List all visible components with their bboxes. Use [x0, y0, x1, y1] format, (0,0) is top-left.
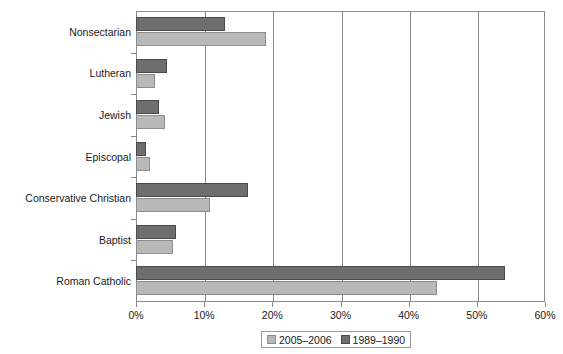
y-axis-label-lutheran: Lutheran	[0, 67, 131, 79]
y-axis-tick	[131, 260, 136, 261]
y-axis-tick	[131, 136, 136, 137]
bar-2005-2006	[136, 74, 155, 88]
bar-2005-2006	[136, 157, 150, 171]
bar-row	[136, 136, 545, 178]
y-axis-label-episcopal: Episcopal	[0, 151, 131, 163]
legend-item-1989-1990: 1989–1990	[341, 334, 406, 346]
chart-legend: 2005–2006 1989–1990	[261, 331, 411, 348]
bar-2005-2006	[136, 115, 165, 129]
x-axis-label-20: 20%	[249, 309, 295, 322]
bar-1989-1990	[136, 100, 159, 114]
bar-2005-2006	[136, 240, 173, 254]
bar-row	[136, 53, 545, 95]
bar-row	[136, 11, 545, 53]
y-axis-label-jewish: Jewish	[0, 109, 131, 121]
y-axis-label-roman-catholic: Roman Catholic	[0, 275, 131, 287]
bar-2005-2006	[136, 198, 210, 212]
bar-1989-1990	[136, 266, 505, 280]
x-axis-tick	[409, 302, 410, 307]
y-axis-tick	[131, 94, 136, 95]
legend-label: 1989–1990	[353, 334, 406, 346]
bar-1989-1990	[136, 59, 167, 73]
bar-row	[136, 219, 545, 261]
y-axis-label-conservative-christian: Conservative Christian	[0, 192, 131, 204]
bar-1989-1990	[136, 225, 176, 239]
bar-chart: Nonsectarian Lutheran Jewish Episcopal C…	[0, 0, 563, 354]
y-axis-tick	[131, 53, 136, 54]
y-axis-label-baptist: Baptist	[0, 234, 131, 246]
legend-swatch-icon	[341, 335, 350, 344]
x-axis-label-50: 50%	[454, 309, 500, 322]
x-axis-label-0: 0%	[113, 309, 159, 322]
x-axis-tick	[204, 302, 205, 307]
bar-2005-2006	[136, 281, 437, 295]
bar-1989-1990	[136, 183, 248, 197]
y-axis-label-nonsectarian: Nonsectarian	[0, 26, 131, 38]
y-axis-tick	[131, 177, 136, 178]
x-axis-tick	[545, 302, 546, 307]
bar-row	[136, 177, 545, 219]
x-axis-tick	[341, 302, 342, 307]
bar-1989-1990	[136, 142, 146, 156]
x-axis-tick	[136, 302, 137, 307]
x-axis-label-30: 30%	[318, 309, 364, 322]
legend-item-2005-2006: 2005–2006	[267, 334, 332, 346]
x-axis-label-10: 10%	[181, 309, 227, 322]
bar-row	[136, 94, 545, 136]
legend-swatch-icon	[267, 335, 276, 344]
legend-label: 2005–2006	[279, 334, 332, 346]
bar-1989-1990	[136, 17, 225, 31]
bar-rows	[136, 11, 545, 302]
x-axis-label-60: 60%	[522, 309, 563, 322]
bar-row	[136, 260, 545, 302]
y-axis-labels: Nonsectarian Lutheran Jewish Episcopal C…	[0, 11, 131, 302]
y-axis-tick	[131, 219, 136, 220]
x-axis-tick	[272, 302, 273, 307]
x-axis-label-40: 40%	[386, 309, 432, 322]
bar-2005-2006	[136, 32, 266, 46]
x-axis-tick	[477, 302, 478, 307]
